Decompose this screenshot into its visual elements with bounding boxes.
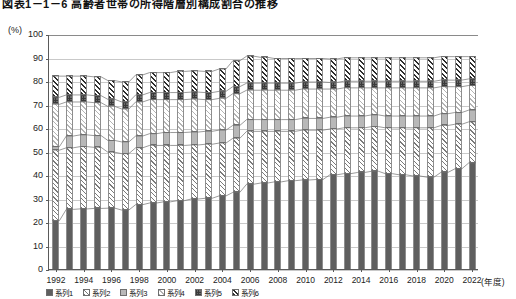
bar-segment-系列3	[94, 135, 101, 147]
bar-2002	[191, 34, 198, 269]
bar-segment-系列3	[205, 130, 212, 143]
bar-segment-系列1	[261, 182, 268, 269]
bar-segment-系列4	[247, 89, 254, 118]
bar-segment-系列6	[399, 57, 406, 81]
y-tick-label: 30	[0, 194, 43, 204]
y-tick-mark	[46, 106, 49, 107]
bar-segment-系列5	[261, 82, 268, 89]
legend-item-系列6: 系列6	[232, 288, 259, 298]
legend-swatch-icon	[120, 289, 127, 296]
y-tick-label: 20	[0, 217, 43, 227]
bar-segment-系列6	[177, 70, 184, 91]
page-title: 図表1－1－6 高齢者世帯の所得階層別構成割合の推移	[2, 0, 278, 9]
bar-segment-系列2	[330, 128, 337, 174]
plot-area: 0102030405060708090100199219941996199820…	[48, 35, 478, 270]
x-tick-label-2022: 2022	[463, 275, 482, 285]
bar-segment-系列5	[163, 92, 170, 99]
bar-segment-系列6	[191, 70, 198, 91]
bar-segment-系列6	[150, 72, 157, 92]
bar-segment-系列2	[288, 130, 295, 179]
bar-segment-系列1	[358, 171, 365, 269]
bar-segment-系列5	[455, 79, 462, 86]
bar-2014	[358, 34, 365, 269]
y-tick-label: 90	[0, 53, 43, 63]
bar-segment-系列1	[413, 175, 420, 269]
bar-segment-系列6	[122, 81, 129, 101]
bar-segment-系列3	[122, 141, 129, 153]
bar-segment-系列5	[122, 101, 129, 108]
bar-segment-系列3	[330, 116, 337, 128]
chart-legend-clipped: 系列1系列2系列3系列4系列5系列6	[0, 288, 516, 299]
bar-2008	[274, 34, 281, 269]
bar-segment-系列1	[330, 174, 337, 269]
bar-segment-系列3	[136, 135, 143, 147]
bar-2017	[399, 34, 406, 269]
bar-segment-系列2	[233, 137, 240, 191]
bar-segment-系列2	[469, 121, 476, 162]
y-tick-label: 40	[0, 170, 43, 180]
bar-segment-系列4	[358, 87, 365, 115]
bar-segment-系列6	[330, 58, 337, 82]
bar-segment-系列1	[274, 181, 281, 269]
bar-segment-系列4	[399, 87, 406, 115]
bar-segment-系列3	[66, 135, 73, 147]
bar-segment-系列2	[94, 146, 101, 207]
y-gridline	[49, 270, 478, 271]
bar-segment-系列1	[469, 162, 476, 269]
bar-segment-系列6	[274, 58, 281, 83]
bar-segment-系列3	[344, 115, 351, 127]
x-tick-label-2012: 2012	[324, 275, 343, 285]
bar-segment-系列2	[302, 129, 309, 179]
bar-segment-系列4	[455, 86, 462, 112]
bar-segment-系列6	[94, 76, 101, 95]
bar-segment-系列5	[136, 94, 143, 101]
bar-segment-系列4	[108, 105, 115, 139]
bar-segment-系列3	[455, 112, 462, 124]
bar-segment-系列6	[219, 68, 226, 90]
x-tick-label-1996: 1996	[102, 275, 121, 285]
bar-segment-系列2	[66, 147, 73, 209]
x-tick-label-2010: 2010	[296, 275, 315, 285]
bar-segment-系列2	[316, 129, 323, 178]
y-tick-mark	[46, 223, 49, 224]
x-tick-label-2016: 2016	[379, 275, 398, 285]
bar-segment-系列4	[261, 89, 268, 118]
y-tick-mark	[46, 200, 49, 201]
bar-1999	[150, 34, 157, 269]
bar-segment-系列2	[441, 124, 448, 171]
x-tick-mark	[417, 269, 418, 272]
bar-segment-系列3	[233, 124, 240, 137]
bar-segment-系列1	[94, 207, 101, 269]
bar-segment-系列4	[94, 102, 101, 135]
bar-segment-系列1	[385, 173, 392, 269]
bar-segment-系列6	[427, 57, 434, 81]
bar-segment-系列1	[247, 183, 254, 269]
bar-segment-系列6	[358, 57, 365, 81]
legend-swatch-icon	[232, 289, 239, 296]
bar-segment-系列5	[108, 98, 115, 105]
x-tick-mark	[84, 269, 85, 272]
bar-segment-系列6	[163, 72, 170, 92]
bar-segment-系列2	[177, 144, 184, 199]
bar-segment-系列4	[385, 87, 392, 115]
bar-segment-系列4	[316, 88, 323, 117]
bar-1994	[80, 34, 87, 269]
bar-segment-系列3	[413, 115, 420, 127]
x-tick-mark	[167, 269, 168, 272]
bar-segment-系列5	[247, 82, 254, 89]
y-tick-mark	[46, 35, 49, 36]
bar-segment-系列2	[163, 144, 170, 200]
bar-segment-系列3	[261, 119, 268, 131]
bar-segment-系列6	[441, 56, 448, 80]
bar-segment-系列2	[150, 144, 157, 202]
y-tick-label: 60	[0, 123, 43, 133]
bar-2015	[371, 34, 378, 269]
bar-2020	[441, 34, 448, 269]
bar-segment-系列2	[108, 151, 115, 207]
bar-segment-系列1	[136, 204, 143, 269]
bar-segment-系列4	[302, 88, 309, 117]
bar-segment-系列4	[233, 93, 240, 125]
bar-2012	[330, 34, 337, 269]
x-tick-label-2018: 2018	[407, 275, 426, 285]
y-tick-label: 80	[0, 76, 43, 86]
